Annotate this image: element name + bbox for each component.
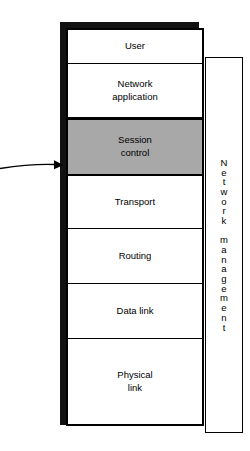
layer-user: User	[68, 30, 202, 64]
layer-data-link: Data link	[68, 284, 202, 339]
pointer-line	[0, 164, 55, 168]
network-management-label: N e t w o r k m a n a g e m e n t	[220, 158, 228, 332]
pointer-arrowhead	[54, 160, 64, 169]
layer-routing: Routing	[68, 229, 202, 284]
layer-transport: Transport	[68, 176, 202, 229]
protocol-stack: User Network application Session control…	[66, 28, 204, 426]
protocol-stack-diagram: User Network application Session control…	[0, 0, 250, 451]
layer-session-control: Session control	[68, 118, 202, 176]
session-control-pointer-arrow	[0, 148, 70, 182]
layer-transport-label: Transport	[115, 196, 155, 209]
layer-physical-link-label: Physical link	[117, 369, 152, 395]
layer-routing-label: Routing	[119, 250, 152, 263]
layer-network-application: Network application	[68, 64, 202, 118]
layer-physical-link: Physical link	[68, 339, 202, 424]
layer-user-label: User	[125, 40, 145, 53]
layer-data-link-label: Data link	[117, 305, 154, 318]
network-management-panel: N e t w o r k m a n a g e m e n t	[205, 57, 243, 433]
layer-network-application-label: Network application	[112, 78, 157, 104]
layer-session-control-label: Session control	[118, 134, 152, 160]
